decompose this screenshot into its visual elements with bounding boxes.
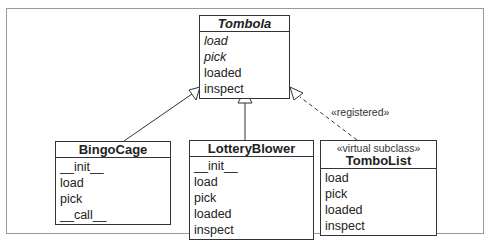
operation: pick [325, 186, 433, 202]
registered-arrowhead-tombolist [290, 87, 303, 100]
operations-list: load pick loaded inspect [200, 32, 289, 98]
class-header: BingoCage [56, 142, 170, 158]
registered-line-tombolist [300, 97, 357, 140]
inheritance-line-bingocage [124, 94, 192, 141]
operation: inspect [325, 218, 433, 234]
class-name: TomboList [346, 153, 411, 168]
operation: __init__ [194, 158, 310, 174]
operation: load [60, 175, 167, 191]
class-header: «virtual subclass» TomboList [321, 141, 436, 169]
operation: loaded [325, 202, 433, 218]
class-bingocage: BingoCage __init__ load pick __call__ [55, 141, 171, 225]
operation: pick [194, 190, 310, 206]
operations-list: __init__ load pick loaded inspect [190, 157, 313, 239]
operation: __init__ [60, 159, 167, 175]
operation: inspect [194, 222, 310, 238]
class-header: LotteryBlower [190, 141, 313, 157]
operation: load [204, 33, 286, 49]
registered-label: «registered» [331, 106, 389, 118]
operation: load [194, 174, 310, 190]
class-lotteryblower: LotteryBlower __init__ load pick loaded … [189, 140, 314, 240]
operations-list: __init__ load pick __call__ [56, 158, 170, 224]
operation: loaded [194, 206, 310, 222]
class-name: LotteryBlower [208, 141, 295, 156]
class-name: BingoCage [79, 142, 148, 157]
operation: __call__ [60, 207, 167, 223]
class-header: Tombola [200, 16, 289, 32]
operations-list: load pick loaded inspect [321, 169, 436, 235]
operation: loaded [204, 65, 286, 81]
class-tombolist: «virtual subclass» TomboList load pick l… [320, 140, 437, 236]
operation: inspect [204, 81, 286, 97]
operation: pick [204, 49, 286, 65]
class-name: Tombola [218, 16, 272, 31]
class-tombola: Tombola load pick loaded inspect [199, 15, 290, 99]
operation: pick [60, 191, 167, 207]
operation: load [325, 170, 433, 186]
